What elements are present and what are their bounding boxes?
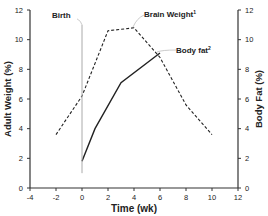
y-tick-label-right: 6 bbox=[245, 95, 249, 104]
y-tick-label-left: 6 bbox=[19, 95, 23, 104]
birth-leader bbox=[77, 19, 82, 25]
brain-weight-leader bbox=[133, 15, 144, 27]
y-tick-label-right: 10 bbox=[245, 35, 253, 44]
y-tick-label-left: 12 bbox=[15, 6, 23, 15]
birth-label: Birth bbox=[52, 11, 71, 20]
x-tick-label: 10 bbox=[208, 193, 216, 202]
x-tick-label: 12 bbox=[234, 193, 242, 202]
y-axis-title-left: Adult Weight (%) bbox=[2, 61, 13, 137]
brain-weight-series bbox=[56, 28, 212, 135]
chart: -4-2024681012024681012024681012 Birth Br… bbox=[0, 0, 268, 216]
body-fat-label: Body fat2 bbox=[176, 45, 211, 55]
y-tick-label-right: 12 bbox=[245, 6, 253, 15]
annotations: Birth Brain Weight1 Body fat2 bbox=[52, 9, 211, 173]
x-tick-label: -4 bbox=[27, 193, 34, 202]
x-tick-label: 4 bbox=[132, 193, 136, 202]
y-tick-label-left: 4 bbox=[19, 124, 23, 133]
y-tick-label-left: 2 bbox=[19, 154, 23, 163]
y-tick-label-right: 8 bbox=[245, 65, 249, 74]
y-tick-label-right: 2 bbox=[245, 154, 249, 163]
body-fat-label-text: Body fat bbox=[176, 46, 208, 55]
brain-weight-superscript: 1 bbox=[193, 9, 196, 15]
axes: -4-2024681012024681012024681012 bbox=[15, 6, 254, 203]
x-tick-label: 0 bbox=[80, 193, 84, 202]
y-tick-label-left: 0 bbox=[19, 184, 23, 193]
brain-weight-label-text: Brain Weight bbox=[144, 10, 194, 19]
x-tick-label: 6 bbox=[158, 193, 162, 202]
brain-weight-label: Brain Weight1 bbox=[144, 9, 196, 19]
body-fat-leader bbox=[157, 50, 176, 52]
y-tick-label-right: 0 bbox=[245, 184, 249, 193]
y-axis-title-right: Body Fat (%) bbox=[253, 70, 264, 128]
x-tick-label: -2 bbox=[53, 193, 60, 202]
y-tick-label-left: 10 bbox=[15, 35, 23, 44]
body-fat-series bbox=[82, 53, 160, 161]
x-tick-label: 2 bbox=[106, 193, 110, 202]
x-tick-label: 8 bbox=[184, 193, 188, 202]
y-tick-label-right: 4 bbox=[245, 124, 249, 133]
y-tick-label-left: 8 bbox=[19, 65, 23, 74]
body-fat-superscript: 2 bbox=[208, 45, 211, 51]
x-axis-title: Time (wk) bbox=[111, 203, 157, 214]
